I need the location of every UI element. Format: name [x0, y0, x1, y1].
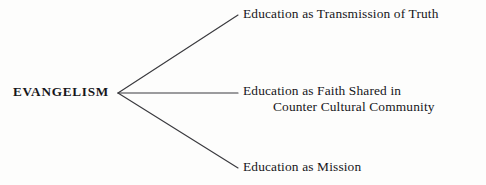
branch-node-education-as-mission: Education as Mission [243, 159, 361, 175]
branch-node-line-1: Education as Faith Shared in [243, 83, 401, 98]
branch-line-bottom [118, 93, 238, 168]
branch-line-top [118, 15, 238, 93]
diagram-canvas: EVANGELISM Education as Transmission of … [0, 0, 486, 185]
branch-node-education-as-transmission-of-truth: Education as Transmission of Truth [243, 6, 439, 22]
root-node-evangelism: EVANGELISM [13, 84, 109, 100]
branch-node-line-2: Counter Cultural Community [243, 99, 435, 115]
branch-node-line-1: Education as Transmission of Truth [243, 6, 439, 21]
branch-node-line-1: Education as Mission [243, 159, 361, 174]
branch-node-education-as-faith-shared: Education as Faith Shared in Counter Cul… [243, 83, 435, 115]
